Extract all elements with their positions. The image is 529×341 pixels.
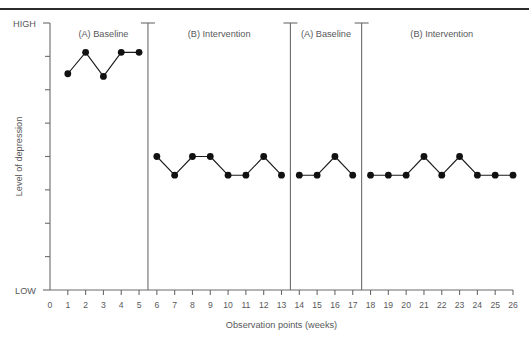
- x-tick-label-7: 7: [172, 300, 177, 310]
- x-tick-label-11: 11: [241, 300, 250, 310]
- phase-label-1: (B) Intervention: [188, 29, 251, 39]
- x-tick-label-22: 22: [437, 300, 447, 310]
- x-tick-label-10: 10: [223, 300, 233, 310]
- data-point: [510, 172, 517, 179]
- x-tick-label-12: 12: [259, 300, 269, 310]
- data-point: [136, 49, 143, 56]
- x-tick-label-3: 3: [101, 300, 106, 310]
- x-tick-label-23: 23: [455, 300, 465, 310]
- data-point: [242, 172, 249, 179]
- data-point: [492, 172, 499, 179]
- x-axis-title: Observation points (weeks): [226, 320, 337, 330]
- data-point: [260, 153, 267, 160]
- data-point: [100, 73, 107, 80]
- data-point: [438, 172, 445, 179]
- x-tick-label-2: 2: [83, 300, 88, 310]
- x-tick-label-18: 18: [366, 300, 376, 310]
- data-point: [349, 172, 356, 179]
- data-point: [82, 49, 89, 56]
- series-segment-0: [68, 52, 139, 76]
- x-tick-label-20: 20: [401, 300, 411, 310]
- data-point: [189, 153, 196, 160]
- data-point: [296, 172, 303, 179]
- chart-svg: 0123456789101112131415161718192021222324…: [0, 0, 529, 341]
- data-point: [171, 172, 178, 179]
- phase-label-0: (A) Baseline: [78, 29, 128, 39]
- chart-axes: [43, 23, 513, 295]
- x-tick-label-19: 19: [384, 300, 394, 310]
- x-tick-label-24: 24: [473, 300, 483, 310]
- y-axis-title: Level of depression: [14, 117, 24, 197]
- data-point: [118, 49, 125, 56]
- x-tick-label-15: 15: [312, 300, 322, 310]
- y-axis-high-label: HIGH: [13, 19, 36, 29]
- x-tick-label-1: 1: [65, 300, 70, 310]
- x-tick-label-9: 9: [208, 300, 213, 310]
- x-tick-label-17: 17: [348, 300, 358, 310]
- y-axis-low-label: LOW: [15, 286, 36, 296]
- x-tick-label-5: 5: [137, 300, 142, 310]
- data-point: [367, 172, 374, 179]
- x-tick-label-8: 8: [190, 300, 195, 310]
- data-point: [421, 153, 428, 160]
- data-point: [207, 153, 214, 160]
- data-point: [64, 70, 71, 77]
- x-tick-label-13: 13: [277, 300, 287, 310]
- data-point: [332, 153, 339, 160]
- x-tick-label-16: 16: [330, 300, 340, 310]
- x-tick-label-21: 21: [419, 300, 429, 310]
- phase-label-3: (B) Intervention: [410, 29, 473, 39]
- x-tick-label-25: 25: [490, 300, 500, 310]
- x-tick-label-6: 6: [154, 300, 159, 310]
- data-point: [278, 172, 285, 179]
- x-tick-label-0: 0: [48, 300, 53, 310]
- single-case-design-chart: 0123456789101112131415161718192021222324…: [0, 0, 529, 341]
- data-point: [153, 153, 160, 160]
- series-segment-2: [299, 157, 352, 176]
- data-point: [403, 172, 410, 179]
- phase-label-2: (A) Baseline: [301, 29, 351, 39]
- data-point: [314, 172, 321, 179]
- data-point: [225, 172, 232, 179]
- x-tick-label-14: 14: [295, 300, 305, 310]
- data-point: [456, 153, 463, 160]
- x-tick-label-4: 4: [119, 300, 124, 310]
- data-point: [385, 172, 392, 179]
- x-tick-label-26: 26: [508, 300, 518, 310]
- data-point: [474, 172, 481, 179]
